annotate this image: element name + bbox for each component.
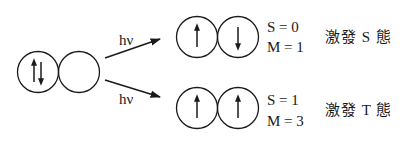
singlet-spin-quantum: S = 0 bbox=[267, 20, 299, 35]
triplet-state-label: 激發 T 態 bbox=[325, 103, 392, 118]
triplet-state bbox=[177, 88, 259, 129]
ground-state bbox=[18, 52, 100, 93]
singlet-state bbox=[177, 17, 259, 58]
ground-orbital-2 bbox=[59, 52, 100, 93]
triplet-spin-quantum: S = 1 bbox=[267, 93, 299, 108]
triplet-multiplicity: M = 3 bbox=[267, 114, 304, 129]
excitation-diagram bbox=[0, 0, 411, 141]
photon-label-triplet: hν bbox=[119, 92, 133, 107]
photon-label-singlet: hν bbox=[119, 33, 133, 48]
ground-orbital-1 bbox=[18, 52, 59, 93]
singlet-state-label: 激發 S 態 bbox=[325, 30, 392, 45]
singlet-multiplicity: M = 1 bbox=[267, 40, 304, 55]
